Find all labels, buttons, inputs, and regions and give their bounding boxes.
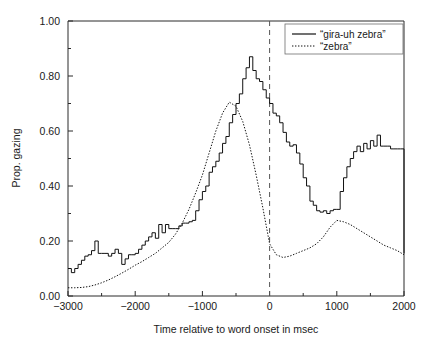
line-chart: 0.000.200.400.600.801.00 −3000−2000−1000…	[0, 0, 423, 347]
legend-label-solid: “gira-uh zebra”	[320, 29, 386, 40]
x-axis-tick-labels: −3000−2000−1000010002000	[53, 300, 416, 312]
y-axis-title: Prop. gazing	[10, 128, 22, 187]
y-tick-label: 0.60	[40, 125, 61, 137]
legend-label-dotted: “zebra”	[320, 41, 352, 52]
y-axis-tick-labels: 0.000.200.400.600.801.00	[40, 15, 61, 302]
x-tick-label: −1000	[188, 300, 218, 312]
y-tick-label: 0.40	[40, 180, 61, 192]
x-tick-label: 1000	[325, 300, 349, 312]
x-tick-label: 0	[267, 300, 273, 312]
y-tick-label: 0.20	[40, 235, 61, 247]
series-line-zebra	[68, 102, 404, 288]
y-axis-ticks	[68, 21, 73, 296]
y-tick-label: 0.80	[40, 70, 61, 82]
x-tick-label: −3000	[53, 300, 83, 312]
legend: “gira-uh zebra” “zebra”	[285, 24, 403, 54]
y-tick-label: 1.00	[40, 15, 61, 27]
chart-figure: 0.000.200.400.600.801.00 −3000−2000−1000…	[0, 0, 423, 347]
x-tick-label: −2000	[120, 300, 150, 312]
x-axis-title: Time relative to word onset in msec	[154, 323, 319, 335]
x-axis-ticks	[68, 291, 404, 296]
series-line-gira-uh-zebra	[68, 57, 404, 273]
x-tick-label: 2000	[392, 300, 416, 312]
